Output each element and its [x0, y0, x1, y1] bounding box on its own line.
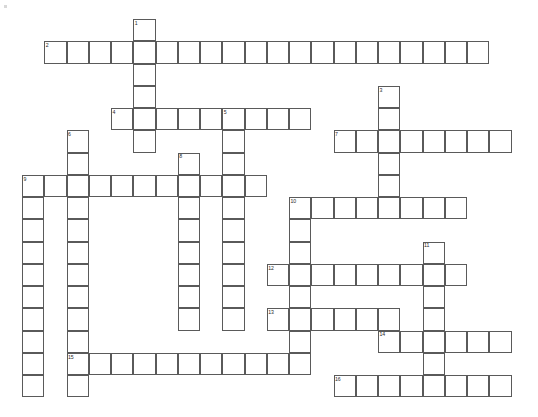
crossword-cell[interactable] [200, 108, 222, 130]
crossword-cell[interactable] [222, 219, 244, 241]
crossword-cell[interactable] [400, 375, 422, 397]
crossword-cell[interactable] [200, 175, 222, 197]
crossword-cell[interactable] [222, 353, 244, 375]
crossword-cell[interactable] [378, 264, 400, 286]
crossword-cell[interactable] [289, 108, 311, 130]
crossword-cell[interactable] [378, 175, 400, 197]
crossword-cell[interactable] [133, 19, 155, 41]
crossword-cell[interactable] [245, 353, 267, 375]
crossword-cell[interactable] [133, 108, 155, 130]
crossword-cell[interactable] [67, 197, 89, 219]
crossword-cell[interactable] [67, 153, 89, 175]
crossword-cell[interactable] [89, 41, 111, 63]
crossword-cell[interactable] [334, 197, 356, 219]
crossword-cell[interactable] [67, 219, 89, 241]
crossword-cell[interactable] [423, 286, 445, 308]
crossword-cell[interactable] [445, 41, 467, 63]
crossword-cell[interactable] [467, 41, 489, 63]
crossword-cell[interactable] [67, 308, 89, 330]
crossword-cell[interactable] [67, 375, 89, 397]
crossword-cell[interactable] [467, 130, 489, 152]
crossword-cell[interactable] [267, 41, 289, 63]
crossword-cell[interactable] [356, 41, 378, 63]
crossword-cell[interactable] [133, 175, 155, 197]
crossword-cell[interactable] [178, 108, 200, 130]
crossword-cell[interactable] [400, 130, 422, 152]
crossword-cell[interactable] [133, 130, 155, 152]
crossword-cell[interactable] [22, 219, 44, 241]
crossword-cell[interactable] [67, 264, 89, 286]
crossword-cell[interactable] [289, 331, 311, 353]
crossword-cell[interactable] [245, 41, 267, 63]
crossword-cell[interactable] [156, 41, 178, 63]
crossword-cell[interactable] [133, 86, 155, 108]
crossword-cell[interactable] [22, 308, 44, 330]
crossword-cell[interactable] [423, 41, 445, 63]
crossword-cell[interactable] [378, 331, 400, 353]
crossword-cell[interactable] [156, 353, 178, 375]
crossword-cell[interactable] [22, 175, 44, 197]
crossword-cell[interactable] [200, 41, 222, 63]
crossword-cell[interactable] [289, 242, 311, 264]
crossword-cell[interactable] [245, 175, 267, 197]
crossword-cell[interactable] [378, 86, 400, 108]
crossword-cell[interactable] [445, 331, 467, 353]
crossword-cell[interactable] [356, 308, 378, 330]
crossword-cell[interactable] [378, 41, 400, 63]
crossword-cell[interactable] [289, 197, 311, 219]
crossword-cell[interactable] [334, 130, 356, 152]
crossword-cell[interactable] [222, 197, 244, 219]
crossword-cell[interactable] [178, 308, 200, 330]
crossword-cell[interactable] [178, 41, 200, 63]
crossword-cell[interactable] [378, 197, 400, 219]
crossword-cell[interactable] [178, 264, 200, 286]
crossword-cell[interactable] [289, 41, 311, 63]
crossword-cell[interactable] [222, 308, 244, 330]
crossword-cell[interactable] [356, 197, 378, 219]
crossword-cell[interactable] [111, 41, 133, 63]
crossword-cell[interactable] [423, 353, 445, 375]
crossword-cell[interactable] [356, 264, 378, 286]
crossword-cell[interactable] [311, 264, 333, 286]
crossword-cell[interactable] [222, 108, 244, 130]
crossword-cell[interactable] [423, 242, 445, 264]
crossword-cell[interactable] [334, 264, 356, 286]
crossword-cell[interactable] [67, 130, 89, 152]
crossword-cell[interactable] [178, 175, 200, 197]
crossword-cell[interactable] [44, 175, 66, 197]
crossword-cell[interactable] [400, 264, 422, 286]
crossword-cell[interactable] [378, 130, 400, 152]
crossword-cell[interactable] [378, 375, 400, 397]
crossword-cell[interactable] [22, 353, 44, 375]
crossword-cell[interactable] [22, 286, 44, 308]
crossword-cell[interactable] [222, 175, 244, 197]
crossword-cell[interactable] [156, 175, 178, 197]
crossword-cell[interactable] [200, 353, 222, 375]
crossword-cell[interactable] [423, 197, 445, 219]
crossword-cell[interactable] [378, 108, 400, 130]
crossword-cell[interactable] [267, 308, 289, 330]
crossword-cell[interactable] [178, 286, 200, 308]
crossword-cell[interactable] [489, 130, 511, 152]
crossword-cell[interactable] [89, 353, 111, 375]
crossword-cell[interactable] [22, 375, 44, 397]
crossword-cell[interactable] [311, 308, 333, 330]
crossword-cell[interactable] [67, 286, 89, 308]
crossword-cell[interactable] [22, 242, 44, 264]
crossword-cell[interactable] [222, 242, 244, 264]
crossword-cell[interactable] [133, 41, 155, 63]
crossword-cell[interactable] [445, 264, 467, 286]
crossword-cell[interactable] [22, 331, 44, 353]
crossword-cell[interactable] [178, 242, 200, 264]
crossword-cell[interactable] [178, 353, 200, 375]
crossword-cell[interactable] [400, 331, 422, 353]
crossword-cell[interactable] [67, 41, 89, 63]
crossword-cell[interactable] [222, 286, 244, 308]
crossword-cell[interactable] [423, 264, 445, 286]
crossword-cell[interactable] [445, 375, 467, 397]
crossword-cell[interactable] [267, 353, 289, 375]
crossword-cell[interactable] [133, 353, 155, 375]
crossword-cell[interactable] [289, 308, 311, 330]
crossword-cell[interactable] [222, 153, 244, 175]
crossword-cell[interactable] [267, 108, 289, 130]
